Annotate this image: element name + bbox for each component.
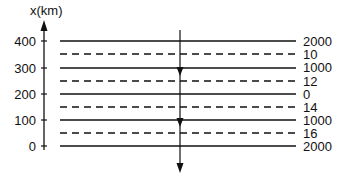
- tick-label-100: 100: [0, 114, 36, 127]
- diagram-canvas: [0, 0, 349, 178]
- downward-ray: [177, 30, 184, 173]
- ray-arrowhead-icon: [177, 163, 184, 173]
- x-axis: [41, 20, 48, 150]
- layer-lines: [60, 41, 296, 146]
- layered-model-diagram: x(km) 400 300 200 100 0 2000 10 1000 12 …: [0, 0, 349, 178]
- layer-label: 2000: [303, 140, 332, 153]
- ray-arrowhead-icon: [177, 67, 184, 76]
- tick-label-400: 400: [0, 35, 36, 48]
- tick-label-0: 0: [0, 140, 36, 153]
- tick-label-200: 200: [0, 88, 36, 101]
- axis-title: x(km): [30, 4, 63, 17]
- tick-label-300: 300: [0, 62, 36, 75]
- axis-arrow-icon: [41, 20, 48, 31]
- ray-arrowhead-icon: [177, 118, 184, 127]
- layer-label: 1000: [303, 61, 332, 74]
